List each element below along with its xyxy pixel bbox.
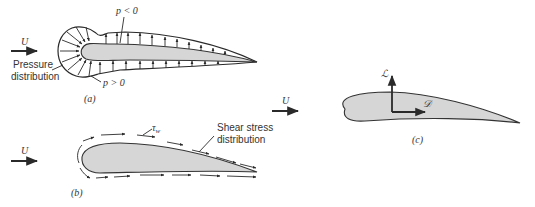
airfoil-c [343, 92, 520, 123]
flow-label-u: U [282, 95, 290, 106]
label-tau-w: τw [152, 122, 161, 135]
panel-b: U τw Shear stress distri [11, 122, 273, 199]
label-distribution: distribution [11, 71, 59, 82]
caption-c: (c) [412, 134, 424, 146]
flow-label-u: U [21, 36, 29, 47]
label-p-negative: p < 0 [115, 5, 138, 16]
leader-tau-w [143, 129, 152, 135]
caption-b: (b) [71, 187, 83, 199]
airfoil-force-diagram: U [0, 0, 535, 207]
flow-label-u: U [21, 145, 29, 156]
panel-c: U ℒ 𝒟 (c) [272, 68, 520, 146]
label-shear-stress: Shear stress [217, 122, 273, 133]
leader-p-positive [91, 76, 101, 82]
label-pressure: Pressure [13, 59, 53, 70]
label-lift: ℒ [381, 68, 389, 79]
panel-a: U [11, 5, 257, 105]
pressure-arrows-lower [100, 61, 218, 74]
leader-p-negative [120, 17, 124, 43]
leader-shear-distribution [199, 136, 214, 152]
label-shear-distribution: distribution [217, 134, 265, 145]
label-p-positive: p > 0 [102, 77, 125, 88]
airfoil-b [82, 143, 257, 173]
airfoil-a [81, 44, 257, 63]
caption-a: (a) [84, 93, 96, 105]
leader-pressure-distribution [52, 65, 63, 70]
